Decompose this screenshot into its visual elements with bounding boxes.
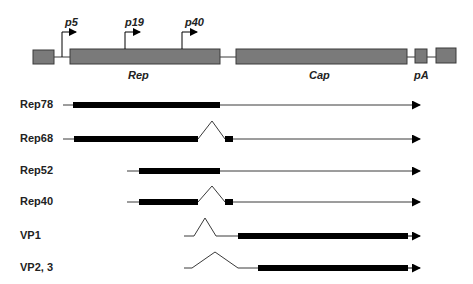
transcript-rep40 <box>127 186 420 205</box>
rep-region-box <box>70 49 220 64</box>
transcript-label-rep40: Rep40 <box>20 195 53 207</box>
promoter-label-p40: p40 <box>185 16 204 28</box>
transcript-rep52 <box>127 168 420 174</box>
itr-left-box <box>33 50 54 64</box>
p19-promoter-arrow <box>125 32 140 49</box>
p40-promoter-arrow <box>182 32 197 49</box>
region-label-rep: Rep <box>128 69 149 81</box>
promoter-label-p19: p19 <box>125 16 144 28</box>
transcript-label-vp1: VP1 <box>20 229 41 241</box>
promoter-label-p5: p5 <box>65 16 78 28</box>
transcript-label-rep52: Rep52 <box>20 164 53 176</box>
transcript-label-rep78: Rep78 <box>20 98 53 110</box>
itr-right-box <box>436 48 456 63</box>
transcript-rep78 <box>63 102 420 108</box>
transcript-rep68 <box>63 121 420 142</box>
aav-genome-transcript-diagram: p5 p19 p40 Rep Cap pA Rep78 Rep68 Rep52 … <box>0 0 473 284</box>
region-label-cap: Cap <box>309 69 330 81</box>
cap-region-box <box>236 49 407 64</box>
transcript-vp1 <box>184 218 420 239</box>
pa-box <box>415 49 427 63</box>
genome-map <box>33 32 456 64</box>
transcript-label-rep68: Rep68 <box>20 132 53 144</box>
transcript-label-vp2-3: VP2, 3 <box>20 261 53 273</box>
transcript-vp2-3 <box>184 252 420 271</box>
diagram-graphics <box>0 0 473 284</box>
region-label-pa: pA <box>414 69 429 81</box>
